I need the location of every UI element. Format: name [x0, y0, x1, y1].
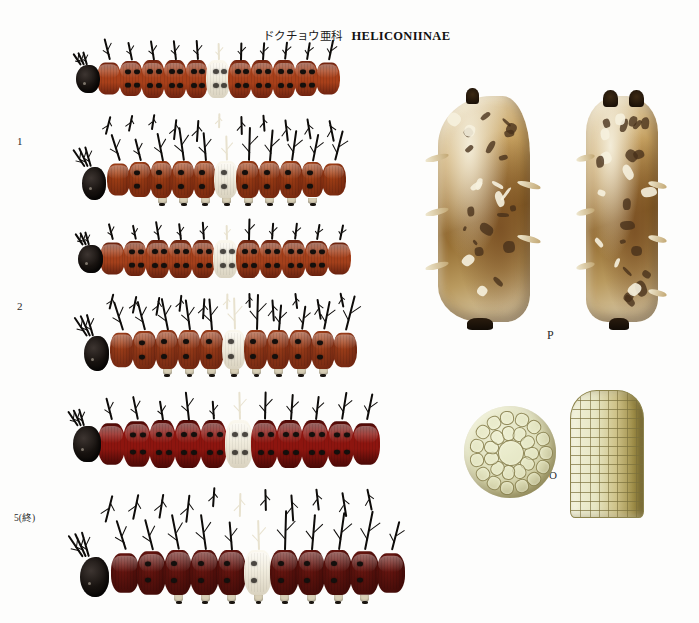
segment-marking-spot: [125, 83, 131, 88]
segment-marking-spot: [145, 578, 151, 583]
larva-eye: [89, 187, 92, 190]
segment-marking-spot: [156, 450, 162, 455]
larva-scolus-spine: [225, 293, 228, 309]
segment-highlight: [201, 332, 222, 349]
segment-marking-spot: [217, 432, 223, 437]
larva-head-capsule: [80, 557, 110, 597]
larva-segment: [297, 550, 326, 596]
segment-marking-spot: [191, 69, 197, 74]
segment-highlight: [156, 332, 177, 349]
segment-highlight: [186, 63, 207, 79]
segment-marking-spot: [265, 83, 271, 88]
segment-highlight: [303, 423, 327, 443]
segment-marking-spot: [156, 170, 162, 175]
proleg-claw: [202, 601, 208, 604]
segment-marking-spot: [169, 69, 175, 74]
larva-scolus-spine: [104, 116, 111, 135]
egg-longitudinal-rib: [627, 391, 628, 517]
larva-scolus-spine: [233, 297, 236, 330]
larva-scolus-spine: [278, 304, 283, 330]
egg-transverse-rib: [571, 446, 643, 447]
larva-scolus-spine: [200, 514, 207, 550]
larva-scolus-spine: [240, 116, 243, 135]
segment-marking-spot: [334, 432, 340, 437]
segment-highlight: [166, 552, 191, 571]
segment-highlight: [194, 163, 215, 179]
larva-scolus-spine: [391, 521, 401, 550]
segment-highlight: [325, 552, 350, 571]
larva-scolus-spine: [212, 401, 216, 421]
segment-marking-spot: [229, 249, 235, 254]
larva-segment: [236, 240, 261, 277]
larva-scolus-spine: [316, 224, 321, 240]
larva-segment: [350, 551, 379, 594]
segment-highlight: [192, 552, 217, 571]
proleg-claw: [320, 374, 326, 377]
larva-scolus-spine: [132, 396, 139, 420]
segment-highlight: [295, 63, 316, 78]
specimen-pupa-dorsal: [586, 96, 658, 322]
larva-scolus-spine: [315, 489, 320, 511]
larva-scolus-spine: [284, 510, 287, 550]
segment-marking-spot: [174, 249, 180, 254]
segment-marking-spot: [183, 339, 189, 344]
segment-marking-spot: [232, 432, 238, 437]
larva-segment: [270, 550, 299, 596]
larva-body: [101, 240, 350, 277]
segment-highlight: [278, 423, 302, 443]
segment-marking-spot: [331, 561, 337, 566]
segment-marking-spot: [287, 69, 293, 74]
larva-scolus-spine: [339, 225, 345, 241]
stage-label-instar-5-final: 5(終): [14, 510, 35, 524]
segment-marking-spot: [147, 83, 153, 88]
larva-segment: [177, 330, 201, 370]
larva-scolus-spine: [271, 223, 275, 240]
segment-marking-spot: [161, 263, 167, 268]
larva-proleg: [227, 595, 236, 603]
larva-segment: [352, 423, 379, 464]
larva-scolus-spine: [229, 521, 234, 550]
larva-segment: [150, 161, 174, 198]
larva-scolus-spine: [334, 130, 344, 161]
larva-scolus-spine: [262, 114, 266, 131]
larva-segment: [190, 550, 219, 596]
segment-highlight: [112, 555, 137, 571]
segment-marking-spot: [206, 339, 212, 344]
larva-segment: [123, 421, 150, 467]
larva-proleg: [174, 595, 183, 603]
larva-segment: [228, 60, 252, 97]
segment-marking-spot: [152, 249, 158, 254]
segment-marking-spot: [224, 578, 230, 583]
larva-proleg: [274, 369, 283, 376]
segment-marking-spot: [251, 578, 257, 583]
larva-scolus-spine: [155, 297, 160, 316]
segment-highlight: [139, 553, 164, 571]
segment-highlight: [302, 164, 323, 179]
segment-marking-spot: [138, 250, 144, 255]
larva-segment: [213, 240, 238, 277]
specimen-egg-lateral-view: [570, 390, 644, 518]
larva-scolus-spine: [218, 113, 221, 128]
egg-reticulation-cell: [468, 437, 485, 454]
larva-scolus-spine: [195, 120, 199, 142]
segment-highlight: [124, 243, 146, 258]
larva-scolus-spine: [238, 492, 241, 516]
larva-proleg: [244, 198, 253, 204]
pupa-head-horn: [603, 90, 618, 107]
larva-segment: [322, 164, 346, 196]
segment-marking-spot: [221, 170, 227, 175]
larva-body: [111, 330, 356, 370]
segment-highlight: [299, 552, 324, 571]
larva-segment: [377, 553, 406, 592]
larva-head-capsule: [78, 245, 103, 274]
segment-highlight: [378, 555, 403, 571]
segment-marking-spot: [319, 250, 325, 255]
segment-highlight: [280, 163, 301, 179]
segment-marking-spot: [221, 184, 227, 189]
egg-lateral-shell: [570, 390, 644, 518]
larva-segment: [137, 551, 166, 594]
larva-segment: [301, 420, 328, 468]
pupa-camouflage-blotch: [475, 247, 484, 256]
larva-body: [99, 420, 379, 468]
larva-scolus-spine: [257, 520, 260, 550]
